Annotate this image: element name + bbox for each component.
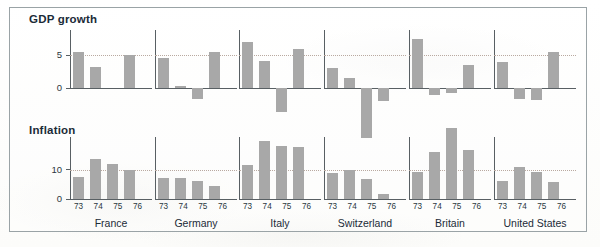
bar-switzerland-76 <box>378 194 389 199</box>
bar-britain-75 <box>446 128 457 199</box>
panel-inflation-united-states: 73747576United States <box>494 0 576 247</box>
x-tick-labels: 73747576 <box>412 202 482 211</box>
y-axis-line <box>409 137 410 199</box>
bar-germany-76 <box>209 186 220 199</box>
x-tick-75: 75 <box>451 202 462 211</box>
x-tick-73: 73 <box>412 202 423 211</box>
bar-france-73 <box>73 177 84 199</box>
section-title-inflation: Inflation <box>29 124 76 136</box>
y-axis-line <box>155 137 156 199</box>
bar-united-states-75 <box>531 172 542 199</box>
x-tick-73: 73 <box>158 202 169 211</box>
bar-switzerland-75 <box>361 179 372 199</box>
x-tick-74: 74 <box>347 202 358 211</box>
x-tick-73: 73 <box>497 202 508 211</box>
bar-united-states-73 <box>497 181 508 199</box>
x-tick-74: 74 <box>178 202 189 211</box>
x-tick-75: 75 <box>112 202 123 211</box>
y-tick-label-0: 0 <box>40 193 62 204</box>
bar-united-states-74 <box>514 167 525 199</box>
x-tick-76: 76 <box>301 202 312 211</box>
bar-italy-75 <box>276 146 287 199</box>
bar-britain-73 <box>412 172 423 199</box>
x-tick-labels: 73747576 <box>497 202 567 211</box>
y-axis-line <box>239 137 240 199</box>
x-axis-baseline <box>409 199 491 200</box>
x-axis-baseline <box>155 199 237 200</box>
bar-france-74 <box>90 159 101 199</box>
x-tick-labels: 73747576 <box>158 202 228 211</box>
y-tick-mark-10 <box>66 169 70 170</box>
figure-root: GDP growth Inflation 0573747576France737… <box>0 0 600 247</box>
x-axis-baseline <box>239 199 321 200</box>
x-axis-baseline <box>324 199 406 200</box>
panel-inflation-britain: 73747576Britain <box>409 0 491 247</box>
bar-switzerland-74 <box>344 170 355 199</box>
y-axis-line <box>324 137 325 199</box>
x-tick-73: 73 <box>73 202 84 211</box>
y-tick-label-10: 10 <box>40 164 62 175</box>
x-axis-baseline <box>494 199 576 200</box>
x-tick-labels: 73747576 <box>73 202 143 211</box>
x-tick-76: 76 <box>386 202 397 211</box>
x-tick-73: 73 <box>242 202 253 211</box>
country-label-united-states: United States <box>480 217 590 229</box>
panel-inflation-switzerland: 73747576Switzerland <box>324 0 406 247</box>
x-tick-75: 75 <box>536 202 547 211</box>
bar-italy-73 <box>242 165 253 199</box>
x-tick-74: 74 <box>93 202 104 211</box>
bar-france-75 <box>107 164 118 199</box>
panel-inflation-germany: 73747576Germany <box>155 0 237 247</box>
y-axis-line <box>70 137 71 199</box>
bar-britain-74 <box>429 152 440 199</box>
bar-switzerland-73 <box>327 173 338 199</box>
x-axis-baseline <box>70 199 152 200</box>
bar-united-states-76 <box>548 182 559 199</box>
x-tick-labels: 73747576 <box>242 202 312 211</box>
gridline-10 <box>494 170 576 171</box>
x-tick-76: 76 <box>471 202 482 211</box>
x-tick-76: 76 <box>556 202 567 211</box>
x-tick-74: 74 <box>517 202 528 211</box>
bar-france-76 <box>124 170 135 199</box>
panel-inflation-france: 73747576France <box>70 0 152 247</box>
bar-germany-74 <box>175 178 186 199</box>
x-tick-74: 74 <box>262 202 273 211</box>
bar-britain-76 <box>463 150 474 199</box>
x-tick-73: 73 <box>327 202 338 211</box>
x-tick-76: 76 <box>132 202 143 211</box>
x-tick-75: 75 <box>197 202 208 211</box>
y-tick-label-5: 5 <box>40 49 62 60</box>
bar-germany-73 <box>158 178 169 199</box>
gridline-10 <box>155 170 237 171</box>
y-tick-label-0: 0 <box>40 82 62 93</box>
panel-inflation-italy: 73747576Italy <box>239 0 321 247</box>
bar-germany-75 <box>192 181 203 199</box>
x-tick-76: 76 <box>217 202 228 211</box>
x-tick-75: 75 <box>281 202 292 211</box>
x-tick-labels: 73747576 <box>327 202 397 211</box>
y-tick-mark-0 <box>66 199 70 200</box>
gridline-10 <box>324 170 406 171</box>
x-tick-74: 74 <box>432 202 443 211</box>
bar-italy-74 <box>259 141 270 199</box>
y-axis-line <box>494 137 495 199</box>
bar-italy-76 <box>293 147 304 199</box>
x-tick-75: 75 <box>366 202 377 211</box>
